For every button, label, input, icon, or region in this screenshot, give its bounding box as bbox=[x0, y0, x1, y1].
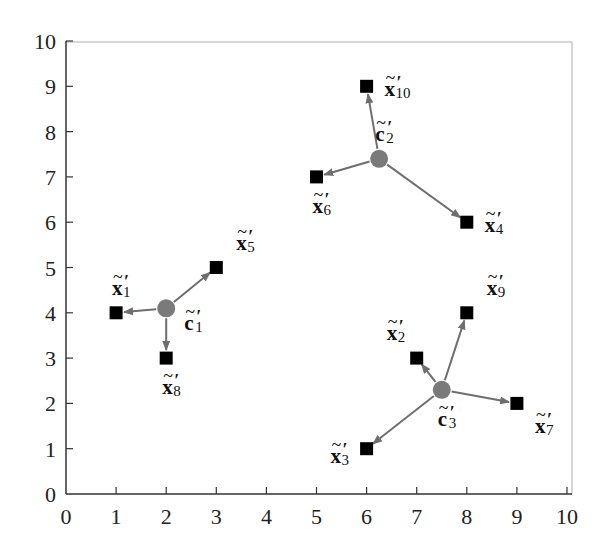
point-marker-x2 bbox=[410, 352, 423, 365]
y-tick-label: 9 bbox=[45, 74, 56, 99]
point-marker-x9 bbox=[460, 306, 473, 319]
y-axis-ticks: 012345678910 bbox=[34, 29, 73, 507]
tilde-accent: ~ bbox=[185, 302, 195, 322]
centroid-marker-c1 bbox=[157, 299, 175, 317]
tilde-accent: ~ bbox=[488, 267, 498, 287]
point-marker-x8 bbox=[160, 352, 173, 365]
x-tick-label: 2 bbox=[161, 504, 172, 529]
point-marker-x7 bbox=[510, 397, 523, 410]
centroid-marker-c3 bbox=[433, 381, 451, 399]
point-label-8: x~′8 bbox=[162, 366, 181, 399]
x-tick-label: 0 bbox=[61, 504, 72, 529]
y-tick-label: 5 bbox=[45, 256, 56, 281]
tilde-accent: ~ bbox=[388, 312, 398, 332]
tilde-accent: ~ bbox=[163, 366, 173, 386]
arrow-c1-to-x5 bbox=[174, 273, 210, 302]
centroid-label-1: c~′1 bbox=[184, 302, 203, 335]
point-label-6: x~′6 bbox=[313, 185, 332, 218]
label-subscript: 3 bbox=[449, 415, 457, 431]
y-tick-label: 7 bbox=[45, 165, 56, 190]
y-tick-label: 3 bbox=[45, 346, 56, 371]
point-marker-x3 bbox=[360, 442, 373, 455]
tilde-accent: ~ bbox=[386, 68, 396, 88]
tilde-accent: ~ bbox=[314, 185, 324, 205]
label-subscript: 7 bbox=[546, 422, 554, 438]
x-tick-label: 5 bbox=[311, 504, 322, 529]
y-tick-label: 6 bbox=[45, 210, 56, 235]
point-label-9: x~′9 bbox=[487, 267, 506, 300]
x-tick-label: 6 bbox=[361, 504, 372, 529]
label-subscript: 4 bbox=[496, 221, 504, 237]
point-label-7: x~′7 bbox=[535, 405, 554, 438]
label-subscript: 2 bbox=[398, 329, 406, 345]
label-subscript: 2 bbox=[386, 130, 394, 146]
x-tick-label: 8 bbox=[461, 504, 472, 529]
x-tick-label: 4 bbox=[261, 504, 272, 529]
tilde-accent: ~ bbox=[536, 405, 546, 425]
label-subscript: 9 bbox=[498, 284, 506, 300]
y-tick-label: 8 bbox=[45, 120, 56, 145]
label-subscript: 1 bbox=[123, 284, 131, 300]
label-subscript: 5 bbox=[247, 239, 255, 255]
tilde-accent: ~ bbox=[439, 398, 449, 418]
x-tick-label: 10 bbox=[556, 504, 578, 529]
point-marker-x10 bbox=[360, 80, 373, 93]
x-tick-label: 1 bbox=[111, 504, 122, 529]
arrow-c3-to-x9 bbox=[445, 320, 464, 380]
centroid-label-3: c~′3 bbox=[438, 398, 457, 431]
point-marker-x4 bbox=[460, 216, 473, 229]
centroid-label-2: c~′2 bbox=[375, 113, 394, 146]
tilde-accent: ~ bbox=[376, 113, 386, 133]
tilde-accent: ~ bbox=[237, 222, 247, 242]
y-tick-label: 0 bbox=[45, 482, 56, 507]
centroid-marker-c2 bbox=[370, 150, 388, 168]
y-tick-label: 10 bbox=[34, 29, 56, 54]
point-label-4: x~′4 bbox=[485, 204, 504, 237]
point-label-2: x~′2 bbox=[387, 312, 406, 345]
point-label-3: x~′3 bbox=[331, 435, 350, 468]
label-subscript: 3 bbox=[342, 452, 350, 468]
arrow-c2-to-x4 bbox=[387, 165, 460, 218]
y-tick-label: 1 bbox=[45, 437, 56, 462]
tilde-accent: ~ bbox=[486, 204, 496, 224]
x-tick-label: 7 bbox=[411, 504, 422, 529]
y-tick-label: 4 bbox=[45, 301, 56, 326]
scatter-chart: 012345678910 012345678910 x~′1x~′5x~′8c~… bbox=[0, 0, 606, 557]
arrow-c3-to-x2 bbox=[422, 364, 436, 382]
label-subscript: 1 bbox=[195, 319, 203, 335]
tilde-accent: ~ bbox=[332, 435, 342, 455]
point-marker-x1 bbox=[110, 306, 123, 319]
point-marker-x6 bbox=[310, 170, 323, 183]
label-subscript: 10 bbox=[396, 85, 411, 101]
x-tick-label: 3 bbox=[211, 504, 222, 529]
label-subscript: 6 bbox=[324, 202, 332, 218]
point-labels: x~′1x~′5x~′8c~′1x~′10x~′6x~′4c~′2x~′2x~′… bbox=[112, 68, 554, 467]
point-label-5: x~′5 bbox=[236, 222, 255, 255]
y-tick-label: 2 bbox=[45, 391, 56, 416]
arrow-c3-to-x3 bbox=[373, 396, 434, 444]
point-marker-x5 bbox=[210, 261, 223, 274]
arrow-c1-to-x1 bbox=[124, 309, 156, 312]
point-label-10: x~′10 bbox=[385, 68, 411, 101]
x-tick-label: 9 bbox=[511, 504, 522, 529]
arrow-c2-to-x6 bbox=[324, 162, 369, 175]
centroid-arrows bbox=[124, 94, 509, 444]
label-subscript: 8 bbox=[173, 383, 181, 399]
tilde-accent: ~ bbox=[113, 267, 123, 287]
arrow-c3-to-x7 bbox=[452, 392, 509, 402]
point-label-1: x~′1 bbox=[112, 267, 131, 300]
